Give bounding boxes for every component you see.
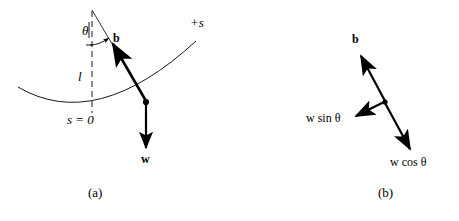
theta-angle-arc (90, 38, 109, 45)
vector-w-cos-theta-arrow (385, 103, 410, 149)
length-label: l (78, 70, 82, 83)
vector-origin-point (382, 99, 387, 104)
caption-panel-b: (b) (378, 186, 393, 199)
pendulum-path-arc (18, 41, 196, 102)
angle-theta-label: θ (82, 24, 88, 37)
tension-vector-label-panel-a: b (113, 32, 120, 44)
caption-panel-a: (a) (88, 186, 102, 199)
tangential-component-label: w sin θ (306, 112, 340, 124)
radial-component-label: w cos θ (390, 156, 426, 168)
figure-root: θ b +s l s = 0 w (a) b w sin θ w cos θ (… (0, 0, 459, 221)
tension-vector-label-panel-b: b (352, 33, 359, 45)
vector-b-arrow-panel-a (113, 44, 146, 101)
positive-s-axis-label: +s (190, 16, 204, 29)
pendulum-bob (143, 99, 149, 105)
vector-w-sin-theta-arrow (356, 102, 384, 116)
vector-b-arrow-panel-b (361, 56, 385, 101)
arc-origin-label: s = 0 (67, 113, 94, 126)
weight-vector-label-panel-a: w (141, 153, 150, 165)
